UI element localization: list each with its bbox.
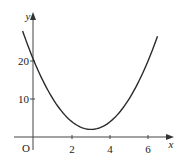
y-axis-label: y	[25, 10, 31, 22]
y-tick-label: 20	[18, 55, 30, 67]
x-tick-label: 4	[107, 143, 113, 155]
y-axis-arrow-icon	[30, 12, 36, 20]
x-axis-label: x	[168, 138, 174, 150]
y-tick-label: 10	[18, 93, 30, 105]
x-tick-label: 6	[145, 143, 151, 155]
parabola-chart: 2 4 6 20 10 O x y	[0, 0, 181, 163]
origin-label: O	[22, 142, 30, 154]
parabola-curve	[23, 31, 158, 129]
x-tick-label: 2	[69, 143, 75, 155]
